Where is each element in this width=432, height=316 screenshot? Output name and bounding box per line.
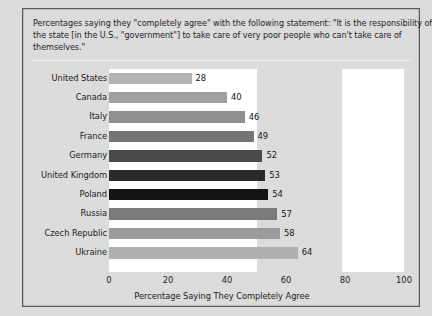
bar-value-label: 49	[258, 131, 269, 141]
bar-row: United Kingdom53	[23, 167, 421, 185]
bar	[109, 247, 298, 259]
bar	[109, 170, 265, 182]
caption-divider	[31, 60, 411, 61]
caption-line-3: themselves."	[33, 41, 409, 53]
x-axis: 020406080100 Percentage Saying They Comp…	[23, 275, 421, 308]
bar-chart-plot: United States28Canada40Italy46France49Ge…	[23, 64, 421, 308]
x-tick-label: 100	[396, 275, 412, 285]
bar-category-label: Italy	[0, 111, 107, 121]
bar-row: France49	[23, 128, 421, 146]
x-axis-title: Percentage Saying They Completely Agree	[23, 291, 421, 301]
x-tick-label: 20	[163, 275, 174, 285]
bar-value-label: 28	[196, 73, 207, 83]
bar-row: United States28	[23, 70, 421, 88]
bar-value-label: 40	[231, 92, 242, 102]
x-tick-label: 0	[106, 275, 111, 285]
bar-value-label: 58	[284, 228, 295, 238]
bar-row: Italy46	[23, 108, 421, 126]
figure-caption: Percentages saying they "completely agre…	[33, 17, 409, 53]
bar-category-label: Poland	[0, 189, 107, 199]
bar-category-label: United Kingdom	[0, 170, 107, 180]
bar	[109, 189, 268, 201]
bar-row: Germany52	[23, 147, 421, 165]
caption-line-2: the state [in the U.S., "government"] to…	[33, 29, 409, 41]
bar	[109, 150, 262, 162]
bar-category-label: Russia	[0, 208, 107, 218]
x-tick-label: 80	[340, 275, 351, 285]
caption-line-1: Percentages saying they "completely agre…	[33, 17, 409, 29]
figure-panel: Percentages saying they "completely agre…	[22, 8, 420, 307]
bar-row: Czech Republic58	[23, 225, 421, 243]
bar-value-label: 57	[281, 209, 292, 219]
bar	[109, 228, 280, 240]
x-tick-label: 60	[281, 275, 292, 285]
bar-row: Poland54	[23, 186, 421, 204]
bar-row: Russia57	[23, 205, 421, 223]
bar-row: Canada40	[23, 89, 421, 107]
bar-category-label: Canada	[0, 92, 107, 102]
bar-value-label: 64	[302, 247, 313, 257]
bar-row: Ukraine64	[23, 244, 421, 262]
x-tick-label: 40	[222, 275, 233, 285]
bar-category-label: Czech Republic	[0, 228, 107, 238]
bar	[109, 131, 254, 143]
bar	[109, 111, 245, 123]
bar-category-label: France	[0, 131, 107, 141]
bar-value-label: 54	[272, 189, 283, 199]
bar-category-label: Germany	[0, 150, 107, 160]
bar-category-label: Ukraine	[0, 247, 107, 257]
bar-value-label: 46	[249, 112, 260, 122]
bar-category-label: United States	[0, 73, 107, 83]
bar-value-label: 53	[269, 170, 280, 180]
bar	[109, 208, 277, 220]
bar-value-label: 52	[266, 150, 277, 160]
bar	[109, 92, 227, 104]
bar	[109, 73, 192, 85]
